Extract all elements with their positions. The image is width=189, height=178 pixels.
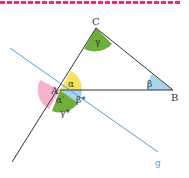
gamma-star-label: γ*	[60, 108, 70, 118]
point-c-label: C	[92, 16, 100, 27]
gamma-label: γ	[95, 37, 100, 47]
point-b-label: B	[171, 92, 178, 103]
triangle-angle-diagram: C A B γ β α α′ β* γ* g	[0, 0, 189, 178]
beta-label: β	[147, 79, 152, 89]
alpha-label: α	[68, 79, 74, 89]
side-cb	[96, 28, 173, 90]
line-g-label: g	[155, 158, 161, 168]
alpha-prime-label: α′	[56, 95, 64, 105]
beta-star-label: β*	[76, 95, 86, 105]
